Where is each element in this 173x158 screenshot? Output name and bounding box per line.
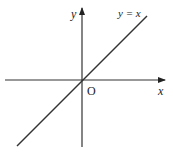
y-axis-label: y <box>70 7 77 21</box>
origin-label: O <box>87 84 96 98</box>
coordinate-diagram: y y = x O x <box>0 0 173 158</box>
line-equation-label: y = x <box>117 7 141 19</box>
x-axis-label: x <box>157 84 164 98</box>
